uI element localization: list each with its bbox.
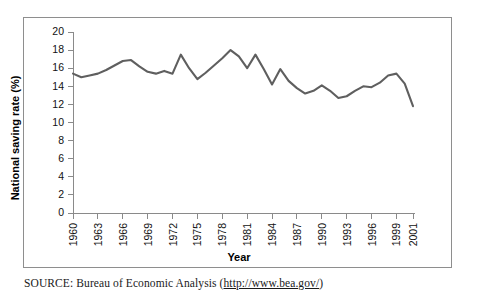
y-tick-label: 6: [58, 152, 64, 164]
x-tick-label: 1975: [191, 223, 203, 247]
saving-rate-line: [73, 50, 413, 106]
y-axis: 02468101214161820: [52, 25, 73, 218]
x-tick-label: 1966: [117, 223, 129, 247]
source-text: Bureau of Economic Analysis (: [73, 277, 223, 289]
x-tick-label: 1963: [92, 223, 104, 247]
x-tick-label: 1996: [366, 223, 378, 247]
y-axis-title: National saving rate (%): [9, 75, 21, 200]
x-tick-label: 1993: [341, 223, 353, 247]
x-tick-label: 1981: [241, 223, 253, 247]
source-url-link[interactable]: http://www.bea.gov/: [224, 277, 320, 289]
y-tick-label: 0: [58, 206, 64, 218]
source-label: SOURCE:: [24, 277, 73, 289]
source-note: SOURCE: Bureau of Economic Analysis (htt…: [24, 277, 323, 289]
x-tick-label: 2001: [407, 223, 419, 247]
x-tick-label: 1972: [167, 223, 179, 247]
x-tick-label: 1999: [390, 223, 402, 247]
national-saving-rate-line-chart: 02468101214161820 1960196319661969197219…: [24, 18, 453, 268]
x-tick-label: 1990: [316, 223, 328, 247]
y-tick-label: 12: [52, 98, 64, 110]
y-tick-label: 8: [58, 134, 64, 146]
y-tick-label: 2: [58, 188, 64, 200]
y-tick-label: 18: [52, 43, 64, 55]
figure-frame: 02468101214161820 1960196319661969197219…: [23, 17, 452, 268]
x-tick-label: 1969: [142, 223, 154, 247]
y-tick-label: 4: [58, 170, 64, 182]
x-tick-label: 1984: [266, 223, 278, 247]
y-tick-label: 14: [52, 80, 64, 92]
y-tick-label: 20: [52, 25, 64, 37]
y-axis-title-wrapper: National saving rate (%): [6, 18, 26, 268]
x-axis: 1960196319661969197219751978198119841987…: [67, 213, 419, 246]
x-tick-label: 1978: [216, 223, 228, 247]
source-close-paren: ): [319, 277, 323, 289]
y-tick-label: 10: [52, 116, 64, 128]
y-tick-label: 16: [52, 61, 64, 73]
x-axis-title: Year: [227, 251, 251, 263]
x-tick-label: 1987: [291, 223, 303, 247]
x-tick-label: 1960: [67, 223, 79, 247]
